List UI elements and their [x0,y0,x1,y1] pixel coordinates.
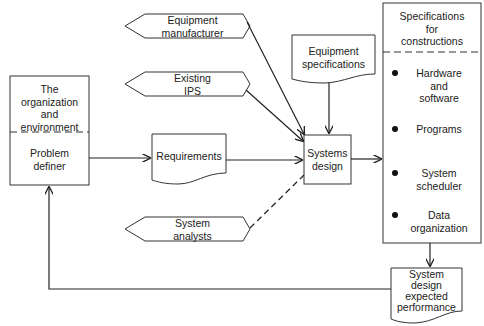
problem-definer-line: Problem [10,147,89,160]
requirements-label: Requirements [152,150,226,163]
spec-item-text: Hardware and software [398,67,480,105]
hex-line: IPS [140,85,245,98]
spec-item-line: scheduler [398,180,480,193]
doc-line: specifications [292,58,375,71]
spec-item-text: Data organization [398,209,480,234]
spec-item-line: Data [398,209,480,222]
spec-item-line: and [398,80,480,93]
hex-line: System [140,217,245,230]
hex-line: Equipment [140,14,245,27]
systems-design-label: Systems design [304,147,351,172]
spec-item-data-organization: Data organization [388,209,480,234]
spec-item-scheduler: System scheduler [388,167,480,192]
spec-item-line: organization [398,222,480,235]
org-title-line: environment [10,121,89,134]
hex-line: manufacturer [140,27,245,40]
system-analysts-label: System analysts [140,217,245,242]
design-line: design [304,160,351,173]
spec-title-line: Specifications [383,10,481,23]
spec-title-line: for [383,23,481,36]
spec-item-text: Programs [398,123,480,136]
spec-item-text: System scheduler [398,167,480,192]
spec-item-line: System [398,167,480,180]
doc-line: Equipment [292,45,375,58]
spec-item-line: software [398,92,480,105]
spec-title-line: constructions [383,35,481,48]
spec-item-line: Programs [398,123,480,136]
edge-manufacturer-to-design [247,22,304,134]
problem-definer-line: definer [10,160,89,173]
spec-item-programs: Programs [388,123,480,136]
specifications-title: Specifications for constructions [383,10,481,48]
org-title-line: organization [10,96,89,109]
edge-analysts-to-design [250,175,304,228]
spec-item-line: Hardware [398,67,480,80]
existing-ips-label: Existing IPS [140,72,245,97]
spec-item-hardware: Hardware and software [388,67,480,105]
perf-line: performance [391,302,462,313]
hex-line: analysts [140,230,245,243]
org-title-line: The [10,83,89,96]
expected-performance-label: System design expected performance [391,269,462,313]
equipment-manufacturer-label: Equipment manufacturer [140,14,245,39]
hex-line: Existing [140,72,245,85]
equipment-specifications-label: Equipment specifications [292,45,375,70]
org-title-line: and [10,108,89,121]
design-line: Systems [304,147,351,160]
organization-title: The organization and environment [10,83,89,133]
problem-definer-label: Problem definer [10,147,89,172]
